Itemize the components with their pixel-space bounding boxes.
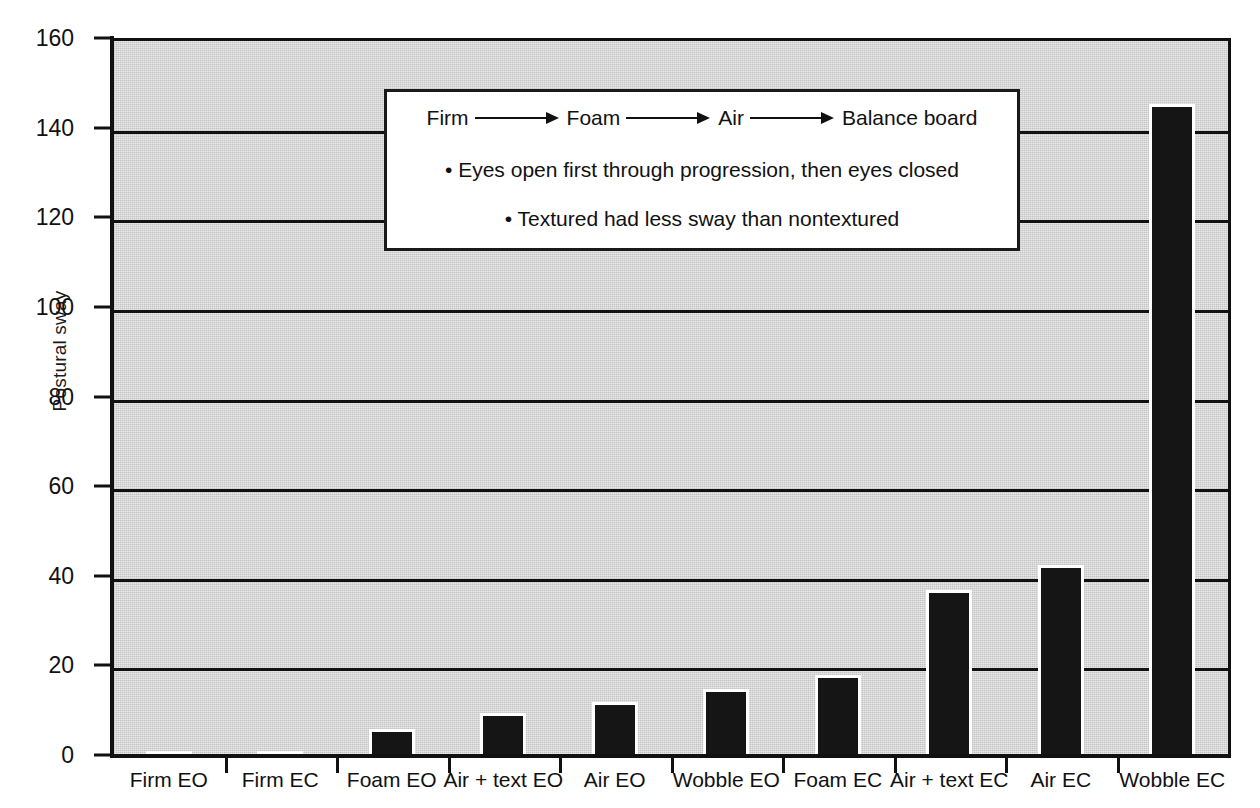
x-axis-tick-mark (336, 758, 339, 773)
bar (1149, 104, 1195, 758)
annotation-bullet-eyes-open: • Eyes open first through progression, t… (387, 158, 1017, 182)
y-axis-tick-mark (94, 574, 110, 577)
x-axis-tick-label: Wobble EO (673, 768, 780, 792)
y-axis-tick-mark (94, 754, 110, 757)
progression-node-firm: Firm (423, 106, 473, 130)
x-axis-tick-mark (782, 758, 785, 773)
y-axis-tick-label: 40 (48, 562, 74, 589)
y-axis-tick-label: 120 (36, 204, 74, 231)
progression-node-foam: Foam (563, 106, 625, 130)
bar (480, 713, 526, 758)
x-axis-tick-label: Air + text EC (890, 768, 1008, 792)
y-axis-tick-label: 0 (61, 742, 74, 769)
bar (926, 590, 972, 758)
y-axis-tick-mark (94, 305, 110, 308)
gridline (113, 489, 1228, 492)
x-axis-tick-label: Wobble EC (1119, 768, 1225, 792)
x-axis-tick-mark (225, 758, 228, 773)
y-axis-tick-labels: 020406080100120140160 (0, 0, 96, 808)
annotation-box: Firm Foam Air Balance board • Eyes open … (384, 89, 1020, 251)
y-axis-tick-mark (94, 664, 110, 667)
bar (1038, 565, 1084, 758)
x-axis-tick-label: Air EC (1030, 768, 1091, 792)
x-axis-tick-label: Air + text EO (443, 768, 563, 792)
y-axis-tick-label: 20 (48, 652, 74, 679)
y-axis-tick-label: 140 (36, 114, 74, 141)
progression-node-balance-board: Balance board (838, 106, 981, 130)
x-axis-tick-label: Foam EO (347, 768, 437, 792)
x-axis-tick-label: Air EO (584, 768, 646, 792)
x-axis-tick-label: Firm EO (130, 768, 208, 792)
x-axis-tick-mark (1005, 758, 1008, 773)
x-axis-tick-label: Foam EC (793, 768, 882, 792)
annotation-bullet-textured: • Textured had less sway than nontexture… (387, 207, 1017, 231)
arrow-right-icon (750, 111, 836, 125)
gridline (113, 310, 1228, 313)
y-axis-tick-mark (94, 485, 110, 488)
x-axis-tick-mark (559, 758, 562, 773)
bar-chart: Postural sway 020406080100120140160 Firm… (0, 0, 1260, 808)
y-axis-tick-mark (94, 216, 110, 219)
y-axis-tick-label: 160 (36, 25, 74, 52)
y-axis-tick-label: 80 (48, 383, 74, 410)
y-axis-tick-mark (94, 37, 110, 40)
y-axis-tick-label: 100 (36, 293, 74, 320)
y-axis-line (110, 36, 114, 758)
y-axis-tick-label: 60 (48, 473, 74, 500)
arrow-right-icon (626, 111, 712, 125)
progression-sequence: Firm Foam Air Balance board (387, 106, 1017, 130)
gridline (113, 400, 1228, 403)
bar (592, 702, 638, 758)
arrow-right-icon (475, 111, 561, 125)
y-axis-tick-mark (94, 395, 110, 398)
y-axis-tick-mark (94, 126, 110, 129)
progression-node-air: Air (714, 106, 748, 130)
x-axis-tick-label: Firm EC (242, 768, 319, 792)
bar (815, 675, 861, 758)
bar (703, 689, 749, 758)
